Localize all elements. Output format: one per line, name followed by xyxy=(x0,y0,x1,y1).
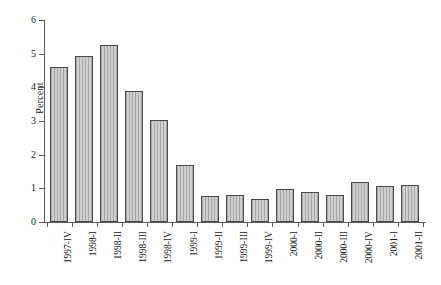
x-tick-mark xyxy=(323,222,324,227)
x-tick-label: 2001-I xyxy=(389,231,399,285)
y-tick-label: 4 xyxy=(10,82,36,92)
x-tick-mark xyxy=(423,222,424,227)
x-axis-line xyxy=(44,222,426,223)
x-tick-label: 1998-III xyxy=(138,231,148,285)
bar-chart: Percent 0123456 1997-IV1998-I1998-II1998… xyxy=(0,0,441,285)
x-tick-mark xyxy=(147,222,148,227)
y-tick-mark xyxy=(39,20,44,21)
bar xyxy=(176,165,194,222)
x-tick-label: 1998-IV xyxy=(163,231,173,285)
x-tick-label: 2001-II xyxy=(414,231,424,285)
bar xyxy=(401,185,419,222)
bar xyxy=(125,91,143,222)
x-tick-label: 1998-I xyxy=(88,231,98,285)
y-tick-mark xyxy=(39,155,44,156)
bar xyxy=(150,120,168,222)
x-tick-mark xyxy=(298,222,299,227)
bar xyxy=(75,56,93,222)
bar xyxy=(50,67,68,222)
y-tick-label: 1 xyxy=(10,183,36,193)
y-tick-label: 6 xyxy=(10,15,36,25)
x-tick-mark xyxy=(47,222,48,227)
x-tick-label: 2000-I xyxy=(289,231,299,285)
x-tick-mark xyxy=(172,222,173,227)
y-tick-mark xyxy=(39,188,44,189)
bar xyxy=(376,186,394,222)
x-tick-mark xyxy=(97,222,98,227)
bar xyxy=(226,195,244,222)
x-tick-mark xyxy=(398,222,399,227)
x-tick-mark xyxy=(348,222,349,227)
x-tick-label: 1998-II xyxy=(113,231,123,285)
bar xyxy=(201,196,219,222)
x-tick-label: 2000-II xyxy=(314,231,324,285)
plot-area: 0123456 1997-IV1998-I1998-II1998-III1998… xyxy=(0,0,441,285)
y-axis-line xyxy=(44,20,45,223)
x-tick-mark xyxy=(373,222,374,227)
x-tick-mark xyxy=(247,222,248,227)
bar xyxy=(100,45,118,222)
y-tick-mark xyxy=(39,54,44,55)
y-tick-mark xyxy=(39,222,44,223)
y-tick-label: 0 xyxy=(10,217,36,227)
bar xyxy=(301,192,319,222)
bar xyxy=(251,199,269,222)
x-tick-label: 1997-IV xyxy=(63,231,73,285)
y-tick-mark xyxy=(39,87,44,88)
y-tick-label: 3 xyxy=(10,116,36,126)
y-tick-label: 2 xyxy=(10,150,36,160)
bar xyxy=(326,195,344,222)
x-tick-label: 1999-III xyxy=(239,231,249,285)
x-tick-mark xyxy=(197,222,198,227)
x-tick-label: 2000-IV xyxy=(364,231,374,285)
x-tick-label: 2000-III xyxy=(339,231,349,285)
x-tick-mark xyxy=(122,222,123,227)
y-tick-mark xyxy=(39,121,44,122)
bar xyxy=(351,182,369,222)
bar xyxy=(276,189,294,222)
x-tick-mark xyxy=(72,222,73,227)
x-tick-mark xyxy=(222,222,223,227)
x-tick-mark xyxy=(272,222,273,227)
x-tick-label: 1999-II xyxy=(214,231,224,285)
x-tick-label: 1999-I xyxy=(189,231,199,285)
y-tick-label: 5 xyxy=(10,49,36,59)
x-tick-label: 1999-IV xyxy=(264,231,274,285)
